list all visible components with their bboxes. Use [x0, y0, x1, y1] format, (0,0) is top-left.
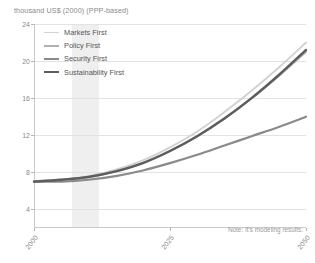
legend: Markets FirstPolicy FirstSecurity FirstS… — [44, 28, 124, 77]
y-tick-label: 24 — [22, 21, 30, 28]
y-tick-label: 8 — [26, 169, 30, 176]
x-tick-mark — [34, 228, 35, 231]
chart-container: thousand US$ (2000) (PPP-based) 48121620… — [0, 0, 315, 263]
chart-note: Note: It's modeling results. — [228, 226, 303, 233]
legend-item[interactable]: Policy First — [44, 41, 124, 50]
legend-item[interactable]: Markets First — [44, 28, 124, 37]
y-tick-label: 12 — [22, 132, 30, 139]
y-tick-label: 4 — [26, 206, 30, 213]
legend-item[interactable]: Sustainability First — [44, 68, 124, 77]
x-tick-label: 2025 — [160, 234, 175, 251]
y-axis-title: thousand US$ (2000) (PPP-based) — [14, 6, 129, 15]
x-tick-label: 2050 — [296, 234, 311, 251]
x-tick-mark — [306, 228, 307, 231]
legend-item-label: Sustainability First — [64, 68, 124, 77]
legend-item-label: Markets First — [64, 28, 107, 37]
legend-color-swatch — [44, 58, 59, 60]
legend-color-swatch — [44, 32, 59, 33]
legend-item-label: Policy First — [64, 41, 100, 50]
legend-item[interactable]: Security First — [44, 54, 124, 63]
y-tick-label: 20 — [22, 58, 30, 65]
series-line — [34, 117, 306, 182]
x-tick-mark — [170, 228, 171, 231]
legend-item-label: Security First — [64, 54, 107, 63]
legend-color-swatch — [44, 71, 59, 73]
legend-color-swatch — [44, 45, 59, 47]
y-tick-label: 16 — [22, 95, 30, 102]
x-tick-label: 2000 — [24, 234, 39, 251]
